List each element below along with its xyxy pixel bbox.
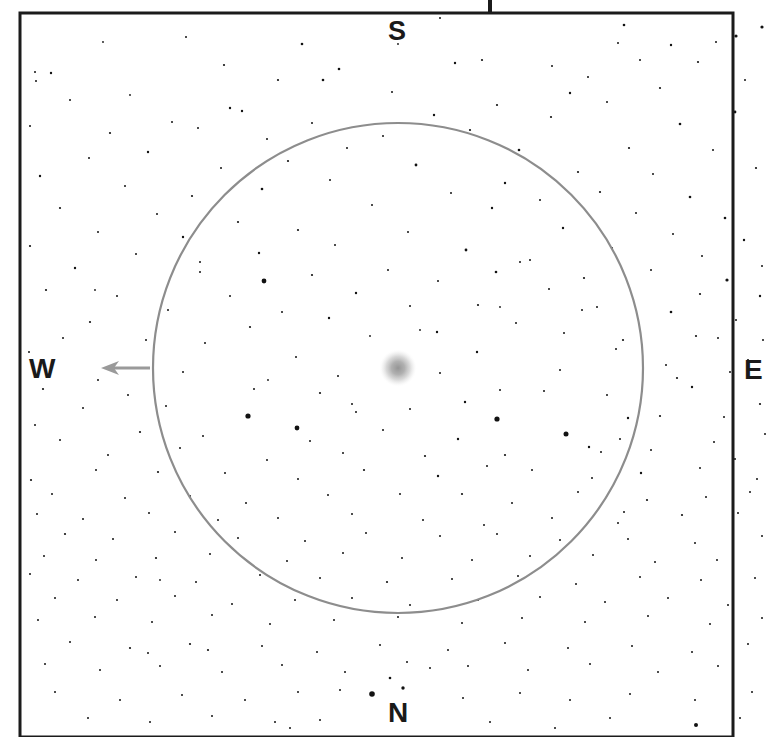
star bbox=[237, 537, 239, 539]
star bbox=[135, 253, 137, 255]
star bbox=[477, 304, 479, 306]
star bbox=[309, 440, 311, 442]
star bbox=[342, 452, 344, 454]
star bbox=[639, 59, 641, 61]
star bbox=[447, 649, 449, 651]
star bbox=[287, 160, 289, 162]
star bbox=[155, 557, 157, 559]
star bbox=[450, 192, 452, 194]
star bbox=[699, 467, 701, 469]
star bbox=[139, 431, 141, 433]
star bbox=[129, 94, 131, 96]
star bbox=[439, 535, 441, 537]
star bbox=[156, 213, 158, 215]
star bbox=[676, 377, 678, 379]
star bbox=[554, 727, 556, 729]
star bbox=[588, 446, 590, 448]
star bbox=[269, 623, 271, 625]
star bbox=[29, 125, 31, 127]
star bbox=[319, 577, 321, 579]
star bbox=[489, 721, 491, 723]
star bbox=[124, 185, 126, 187]
star bbox=[365, 532, 367, 534]
star bbox=[319, 719, 321, 721]
star bbox=[409, 604, 411, 606]
star bbox=[563, 332, 565, 334]
star bbox=[559, 539, 561, 541]
star bbox=[519, 261, 521, 263]
star bbox=[102, 41, 104, 43]
star bbox=[609, 717, 611, 719]
star bbox=[465, 249, 468, 252]
star bbox=[617, 522, 619, 524]
star bbox=[74, 267, 76, 269]
star bbox=[29, 245, 31, 247]
star bbox=[499, 389, 501, 391]
star bbox=[600, 451, 602, 453]
star bbox=[464, 401, 466, 403]
star bbox=[43, 555, 45, 557]
star bbox=[165, 405, 167, 407]
star bbox=[749, 491, 751, 493]
star bbox=[261, 645, 263, 647]
star bbox=[518, 149, 521, 152]
star bbox=[701, 255, 703, 257]
star bbox=[436, 331, 438, 333]
star bbox=[529, 259, 531, 261]
star bbox=[539, 199, 541, 201]
star bbox=[355, 292, 357, 294]
star bbox=[467, 665, 469, 667]
star bbox=[691, 386, 693, 388]
star bbox=[550, 116, 552, 118]
star bbox=[587, 76, 589, 78]
star bbox=[713, 441, 715, 443]
star bbox=[107, 454, 109, 456]
star bbox=[167, 309, 169, 311]
star bbox=[119, 699, 121, 701]
star bbox=[286, 560, 288, 562]
star bbox=[715, 41, 717, 43]
star bbox=[627, 417, 629, 419]
star bbox=[129, 647, 131, 649]
star bbox=[631, 645, 633, 647]
star bbox=[151, 621, 153, 623]
star bbox=[439, 372, 441, 374]
star bbox=[389, 677, 392, 680]
star bbox=[223, 64, 225, 66]
star bbox=[37, 619, 39, 621]
star bbox=[457, 438, 459, 440]
star bbox=[97, 231, 99, 233]
star bbox=[199, 271, 201, 273]
star bbox=[95, 469, 97, 471]
star bbox=[295, 426, 300, 431]
star bbox=[267, 379, 269, 381]
star bbox=[301, 43, 304, 46]
star bbox=[258, 252, 260, 254]
star bbox=[689, 196, 692, 199]
star bbox=[116, 599, 118, 601]
star bbox=[646, 499, 648, 501]
star bbox=[619, 438, 621, 440]
star bbox=[700, 579, 702, 581]
star bbox=[346, 147, 348, 149]
star bbox=[297, 691, 299, 693]
star bbox=[628, 147, 630, 149]
star bbox=[99, 669, 101, 671]
star bbox=[454, 62, 456, 64]
star bbox=[483, 524, 485, 526]
star bbox=[606, 394, 608, 396]
star bbox=[596, 306, 598, 308]
star bbox=[77, 579, 79, 581]
star bbox=[369, 691, 375, 697]
star bbox=[371, 204, 373, 206]
star bbox=[224, 472, 226, 474]
star bbox=[577, 171, 579, 173]
star bbox=[185, 36, 187, 38]
star bbox=[249, 326, 251, 328]
star bbox=[419, 329, 421, 331]
star bbox=[401, 557, 403, 559]
star bbox=[744, 79, 746, 81]
star bbox=[543, 390, 545, 392]
star bbox=[202, 435, 204, 437]
star bbox=[369, 335, 371, 337]
